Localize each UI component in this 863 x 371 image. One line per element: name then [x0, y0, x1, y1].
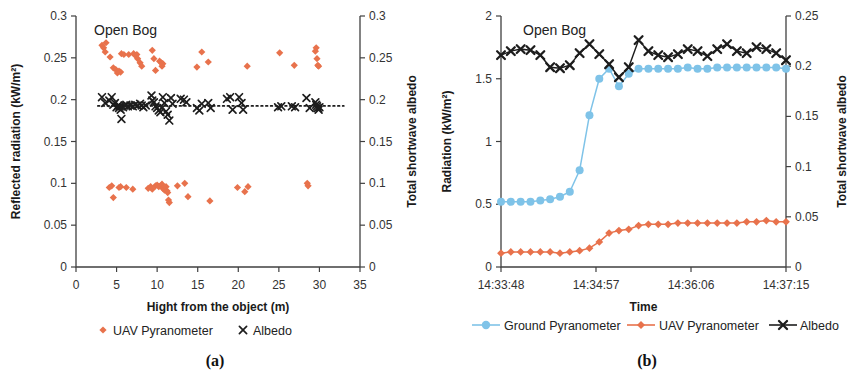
data-point-circle	[497, 198, 505, 206]
data-point-diamond	[527, 248, 535, 256]
data-point-circle	[684, 63, 692, 71]
data-point-circle	[733, 63, 741, 71]
panel-a-y2-tick-label: 0.05	[369, 218, 393, 232]
data-point-diamond	[723, 219, 731, 227]
data-point-diamond	[566, 248, 574, 256]
data-point-circle	[723, 63, 731, 71]
data-point-circle	[585, 111, 593, 119]
panel-a-plot-title: Open Bog	[94, 22, 157, 38]
data-point-circle	[566, 188, 574, 196]
panel-a-y2-tick-label: 0.3	[369, 9, 386, 23]
data-point-circle	[546, 195, 554, 203]
panel-a-legend: UAV PyranometerAlbedo	[99, 324, 292, 338]
data-point-circle	[507, 198, 515, 206]
data-point-diamond	[106, 53, 113, 60]
data-point-diamond	[129, 186, 136, 193]
panel-b-caption-label: (b)	[637, 352, 657, 370]
data-point-diamond	[206, 197, 213, 204]
panel-b-x-tick-label: 14:33:48	[478, 278, 525, 292]
data-point-circle	[782, 65, 790, 73]
data-point-diamond	[110, 194, 117, 201]
data-point-circle	[526, 198, 534, 206]
data-point-diamond	[625, 225, 633, 233]
panel-b-y-axis-title: Radiation (kW/m²)	[440, 91, 454, 193]
data-point-circle	[556, 193, 564, 201]
panel-b-x-axis-title: Time	[630, 300, 658, 314]
legend-label-ground-pyranometer[interactable]: Ground Pyranometer	[504, 319, 621, 333]
panel-b-y-tick-label: 0	[485, 260, 492, 274]
panel-a-y-tick-label: 0.2	[50, 93, 67, 107]
panel-a-y-axis-title: Reflected radiation (kW/m²)	[9, 64, 23, 219]
data-point-diamond	[654, 220, 662, 228]
data-point-diamond	[536, 248, 544, 256]
panel-a-series-albedo	[99, 92, 323, 124]
data-point-diamond	[762, 217, 770, 225]
legend-label-uav-pyranometer[interactable]: UAV Pyranometer	[113, 324, 213, 338]
panel-b-y2-tick-label: 0.25	[795, 9, 819, 23]
panel-a: 00.050.10.150.20.250.300.050.10.150.20.2…	[0, 0, 431, 371]
panel-b-y2-tick-label: 0.2	[795, 59, 812, 73]
data-point-circle	[694, 65, 702, 73]
data-point-diamond	[645, 220, 653, 228]
data-point-diamond	[181, 180, 188, 187]
data-point-diamond	[733, 219, 741, 227]
legend-label-albedo[interactable]: Albedo	[253, 324, 292, 338]
panel-a-y-tick-label: 0	[60, 260, 67, 274]
panel-a-x-tick-label: 5	[113, 278, 120, 292]
panel-b: 00.511.5200.050.10.150.20.2514:33:4814:3…	[431, 0, 863, 371]
data-point-circle	[772, 63, 780, 71]
data-point-diamond	[291, 62, 298, 69]
panel-a-x-axis-title: Hight from the object (m)	[147, 300, 290, 314]
panel-a-y2-tick-label: 0.1	[369, 176, 386, 190]
panel-a-x-tick-label: 30	[313, 278, 327, 292]
panel-a-y-tick-label: 0.3	[50, 9, 67, 23]
series-path	[501, 221, 786, 254]
data-point-diamond	[635, 222, 643, 230]
panel-a-y-tick-label: 0.05	[44, 218, 68, 232]
legend-label-albedo[interactable]: Albedo	[800, 319, 839, 333]
panel-a-y-tick-label: 0.1	[50, 176, 67, 190]
panel-a-series-uav-pyranometer	[98, 39, 322, 206]
data-point-diamond	[517, 248, 525, 256]
panel-b-legend: Ground PyranometerUAV PyranometerAlbedo	[472, 319, 839, 333]
data-point-diamond	[313, 55, 320, 62]
panel-a-chart: 00.050.10.150.20.250.300.050.10.150.20.2…	[0, 0, 431, 371]
panel-a-y2-tick-label: 0.15	[369, 135, 393, 149]
panel-a-y2-tick-label: 0.2	[369, 93, 386, 107]
data-point-diamond	[123, 184, 130, 191]
data-point-circle	[635, 65, 643, 73]
data-point-diamond	[576, 247, 584, 255]
data-point-circle	[536, 196, 544, 204]
legend-label-uav-pyranometer[interactable]: UAV Pyranometer	[659, 319, 759, 333]
panel-b-series-albedo	[497, 36, 790, 81]
panel-b-x-tick-label: 14:37:15	[763, 278, 810, 292]
data-point-diamond	[664, 220, 672, 228]
panel-a-x-tick-label: 25	[272, 278, 286, 292]
series-path	[501, 67, 786, 201]
panel-b-y2-tick-label: 0.15	[795, 109, 819, 123]
data-point-circle	[654, 65, 662, 73]
data-point-diamond	[193, 63, 200, 70]
data-point-circle	[713, 63, 721, 71]
data-point-diamond	[244, 63, 251, 70]
data-point-circle	[576, 166, 584, 174]
panel-a-x-tick-label: 0	[73, 278, 80, 292]
panel-b-y2-axis-title: Total shortwave albedo	[835, 75, 849, 207]
data-point-diamond	[753, 218, 761, 226]
panel-a-y-tick-label: 0.25	[44, 51, 68, 65]
panel-a-y2-tick-label: 0	[369, 260, 376, 274]
panel-b-y2-tick-label: 0.05	[795, 210, 819, 224]
panel-b-series-ground-pyranometer	[497, 63, 790, 205]
panel-a-y-tick-label: 0.15	[44, 135, 68, 149]
panel-b-y2-tick-label: 0.1	[795, 160, 812, 174]
data-point-diamond	[615, 227, 623, 235]
panel-b-y-tick-label: 2	[485, 9, 492, 23]
data-point-diamond	[234, 184, 241, 191]
panel-b-plot-title: Open Bog	[523, 22, 586, 38]
data-point-diamond	[674, 219, 682, 227]
data-point-diamond	[149, 47, 156, 54]
data-point-diamond	[497, 249, 505, 257]
panel-b-y-tick-label: 1.5	[475, 72, 492, 86]
panel-a-x-tick-label: 35	[353, 278, 367, 292]
data-point-diamond	[546, 248, 554, 256]
